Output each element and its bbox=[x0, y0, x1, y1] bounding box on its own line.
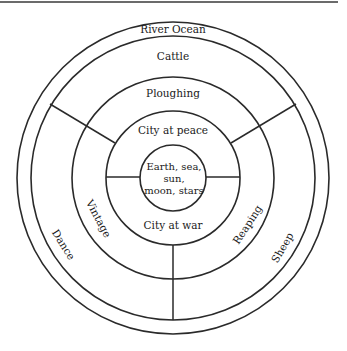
label-city-at-war: City at war bbox=[144, 219, 204, 231]
label-reaping: Reaping bbox=[230, 203, 264, 247]
label-river-ocean: River Ocean bbox=[140, 23, 206, 35]
label-cattle: Cattle bbox=[157, 50, 189, 62]
label-center-line3: moon, stars bbox=[144, 185, 203, 196]
shield-diagram: River Ocean Cattle Ploughing City at pea… bbox=[0, 0, 347, 351]
label-center-line2: sun, bbox=[163, 173, 184, 184]
upper-left-divider bbox=[50, 104, 115, 143]
label-center-line1: Earth, sea, bbox=[146, 161, 201, 172]
label-sheep: Sheep bbox=[269, 230, 296, 265]
label-ploughing: Ploughing bbox=[146, 87, 200, 99]
label-city-at-peace: City at peace bbox=[138, 124, 208, 136]
upper-right-divider bbox=[231, 104, 296, 143]
